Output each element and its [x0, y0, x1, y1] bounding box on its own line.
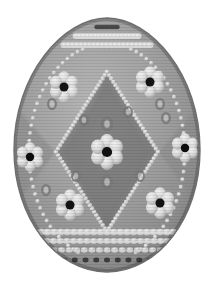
egg-canvas [0, 0, 218, 288]
easter-egg-illustration: Decorated Easter Egg [0, 0, 218, 288]
